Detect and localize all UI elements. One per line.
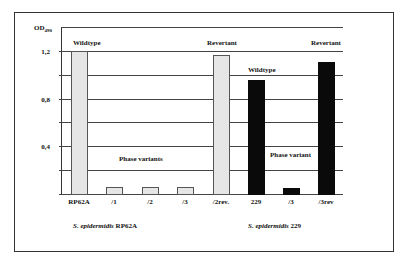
group-label-rp62a: S. epidermidis RP62A	[73, 222, 137, 230]
x-label: /3	[165, 198, 205, 206]
bar-rp62a-3	[177, 187, 194, 195]
top-border-line	[61, 27, 343, 28]
gridline-0.2	[59, 170, 343, 171]
x-axis-baseline	[59, 194, 343, 195]
bar-rp62a-1	[106, 187, 123, 195]
x-label: /1	[94, 198, 134, 206]
y-tick-label: 0,4	[26, 143, 50, 151]
annotation-phase-variant: Phase variant	[270, 151, 311, 159]
y-tick-label: 1,2	[26, 48, 50, 56]
x-label: 229	[236, 198, 276, 206]
annotation-phase-variants: Phase variants	[119, 155, 163, 163]
annotation-wildtype-229: Wildtype	[248, 66, 276, 74]
annotation-revertant: Revertant	[207, 39, 237, 47]
x-label: /2	[130, 198, 170, 206]
y-axis-label: OD490	[34, 24, 52, 33]
x-label: /3rev	[306, 198, 346, 206]
gridline-0.8	[59, 99, 343, 100]
x-label: RP62A	[59, 198, 99, 206]
bar-229	[248, 80, 265, 195]
bar-rp62a-2	[142, 187, 159, 195]
gridline-1.2	[59, 51, 343, 52]
group-label-229: S. epidermidis 229	[248, 222, 301, 230]
bar-229-3rev	[318, 62, 335, 195]
annotation-revertant-229: Revertant	[311, 39, 341, 47]
bar-rp62a-2rev	[213, 55, 230, 195]
x-label: /2rev.	[201, 198, 241, 206]
bar-229-3	[283, 188, 300, 195]
bar-rp62a	[71, 51, 88, 195]
gridline-0.4	[59, 146, 343, 147]
annotation-wildtype: Wildtype	[73, 39, 101, 47]
gridline-0.6	[59, 122, 343, 123]
gridline-1.0	[59, 75, 343, 76]
y-tick-label: 0,8	[26, 96, 50, 104]
x-label: /3	[271, 198, 311, 206]
